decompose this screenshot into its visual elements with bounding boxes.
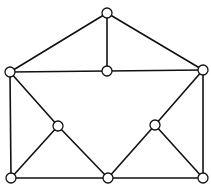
edge-mid-left-mid-center <box>10 71 107 72</box>
node-inner-left <box>53 121 63 131</box>
edge-bottom-center-inner-right <box>108 125 155 178</box>
node-top <box>102 8 112 18</box>
edge-inner-left-bottom-center <box>58 126 108 178</box>
edge-mid-center-mid-right <box>107 70 203 71</box>
node-bottom-left <box>6 173 16 183</box>
edge-mid-left-bottom-left <box>10 72 11 178</box>
node-mid-left <box>5 67 15 77</box>
edge-top-mid-left <box>10 13 107 72</box>
edge-inner-right-mid-right <box>155 70 203 125</box>
edge-inner-right-bottom-right <box>155 125 203 178</box>
edges-group <box>10 13 203 178</box>
node-mid-right <box>198 65 208 75</box>
edge-mid-left-inner-left <box>10 72 58 126</box>
node-bottom-right <box>198 173 208 183</box>
graph-diagram <box>0 0 211 189</box>
edge-top-mid-right <box>107 13 203 70</box>
node-inner-right <box>150 120 160 130</box>
edge-inner-left-bottom-left <box>11 126 58 178</box>
node-bottom-center <box>103 173 113 183</box>
node-mid-center <box>102 66 112 76</box>
